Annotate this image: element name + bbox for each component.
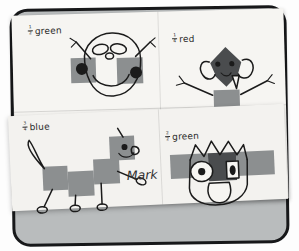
color-word-red: red: [179, 33, 195, 43]
face-ink-lines: [56, 26, 163, 111]
signature-mark: Mark: [126, 167, 157, 183]
fraction-three-quarters: 3 4: [22, 121, 27, 132]
spiky-hair-face-drawing: [167, 138, 290, 213]
fraction-one-quarter: 1 4: [172, 33, 177, 44]
antenna-face-drawing: [56, 26, 163, 111]
color-word-blue: blue: [29, 121, 50, 132]
quadrant-label-top-right: 1 4 red: [172, 33, 195, 45]
color-word-green-1: green: [35, 25, 62, 36]
spiky-face-ink-lines: [167, 138, 290, 213]
fraction-one-half: 1 2: [28, 25, 33, 36]
fraction-two-halves: 2 2: [165, 131, 170, 142]
color-word-green-2: green: [172, 130, 199, 141]
paper-sheet-lower: 3 4 blue: [8, 104, 288, 211]
quadrant-label-bottom-left: 3 4 blue: [22, 120, 50, 132]
quadrant-label-bottom-right: 2 2 green: [165, 130, 199, 143]
photo-canvas: 1 2 green: [0, 0, 299, 251]
quadrant-label-top-left: 1 2 green: [28, 24, 62, 36]
fold-crease-vertical-lower: [158, 109, 163, 204]
